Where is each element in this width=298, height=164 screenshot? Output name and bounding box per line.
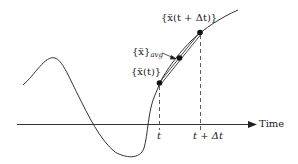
label-start-accel: {ẍ(t)}: [131, 67, 161, 77]
point-start: [157, 80, 163, 86]
acceleration-diagram: [0, 0, 298, 164]
axis-arrowhead-icon: [248, 121, 257, 128]
label-average-sub: avg: [150, 51, 163, 59]
label-average-accel: {ẍ}avg: [132, 47, 163, 59]
label-average-main: {ẍ}: [132, 46, 150, 57]
tick-label-t-plus-dt: t + Δt: [193, 131, 223, 141]
point-end: [197, 30, 203, 36]
point-average: [177, 55, 183, 61]
chord-line-2: [161, 59, 181, 84]
axis-label-time: Time: [259, 119, 284, 129]
label-end-accel: {ẍ(t + Δt)}: [161, 13, 217, 23]
tick-label-t: t: [157, 131, 161, 141]
chord-line-3: [181, 33, 202, 59]
